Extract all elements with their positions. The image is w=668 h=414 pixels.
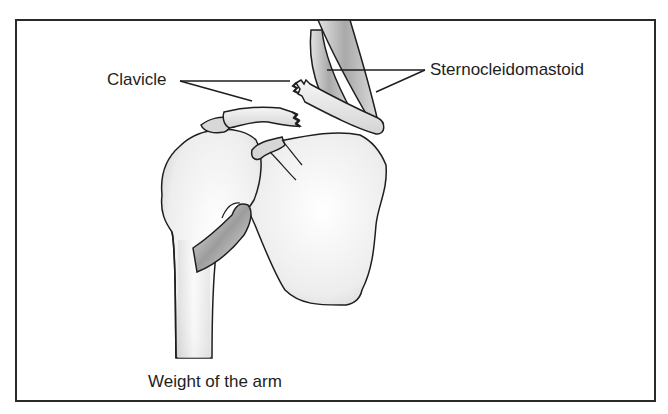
sternocleidomastoid-label: Sternocleidomastoid bbox=[430, 60, 584, 80]
weight-of-arm-label: Weight of the arm bbox=[148, 372, 282, 392]
diagram-figure: Clavicle Sternocleidomastoid Weight of t… bbox=[0, 0, 668, 414]
clavicle-leader-lower bbox=[180, 81, 252, 101]
scapula bbox=[244, 133, 386, 305]
scm-leader-lower bbox=[376, 70, 425, 92]
clavicle-lateral-fragment bbox=[223, 107, 300, 128]
clavicle-label: Clavicle bbox=[107, 70, 167, 90]
